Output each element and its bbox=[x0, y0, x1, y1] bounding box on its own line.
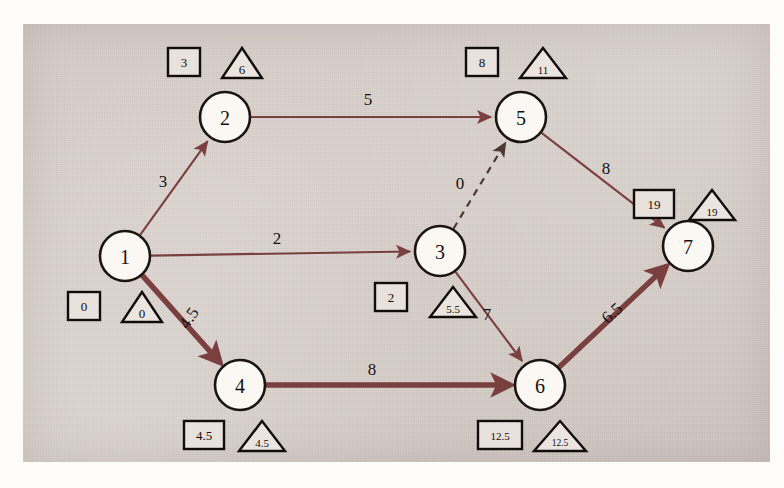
latest-time-value-node-5: 11 bbox=[538, 64, 549, 76]
node-5[interactable]: 5 bbox=[496, 92, 546, 142]
diagram-stage: 003625.54.54.581112.512.51919 1234567 35… bbox=[0, 0, 784, 488]
network-graph: 003625.54.54.581112.512.51919 1234567 35… bbox=[0, 0, 784, 488]
node-label-2: 2 bbox=[220, 107, 230, 129]
node-2[interactable]: 2 bbox=[200, 92, 250, 142]
node-4[interactable]: 4 bbox=[215, 360, 265, 410]
node-label-1: 1 bbox=[120, 246, 130, 268]
earliest-time-value-node-1: 0 bbox=[81, 299, 88, 314]
node-7[interactable]: 7 bbox=[663, 221, 713, 271]
node-6[interactable]: 6 bbox=[515, 360, 565, 410]
edge-weight-4-6: 8 bbox=[368, 360, 377, 379]
edge-weight-3-5: 0 bbox=[456, 174, 465, 193]
earliest-time-value-node-6: 12.5 bbox=[490, 430, 510, 442]
edge-weight-3-6: 7 bbox=[483, 305, 492, 324]
node-time-tags-layer: 003625.54.54.581112.512.51919 bbox=[68, 48, 735, 451]
node-1[interactable]: 1 bbox=[100, 231, 150, 281]
earliest-time-value-node-3: 2 bbox=[388, 290, 395, 305]
edges-layer bbox=[140, 117, 665, 385]
node-3[interactable]: 3 bbox=[415, 226, 465, 276]
node-label-3: 3 bbox=[435, 241, 445, 263]
edge-weight-5-7: 8 bbox=[602, 159, 611, 178]
node-label-4: 4 bbox=[235, 375, 245, 397]
edge-weight-2-5: 5 bbox=[364, 90, 373, 109]
earliest-time-value-node-7: 19 bbox=[648, 197, 661, 212]
earliest-time-value-node-4: 4.5 bbox=[196, 428, 212, 443]
latest-time-value-node-3: 5.5 bbox=[446, 303, 460, 315]
edge-weight-1-4: 4.5 bbox=[175, 304, 203, 332]
earliest-time-value-node-2: 3 bbox=[181, 55, 188, 70]
earliest-time-value-node-5: 8 bbox=[479, 55, 486, 70]
latest-time-value-node-4: 4.5 bbox=[255, 437, 269, 449]
node-label-6: 6 bbox=[535, 375, 545, 397]
latest-time-value-node-7: 19 bbox=[707, 206, 719, 218]
edge-weight-6-7: 6.5 bbox=[598, 299, 627, 327]
edge-1-to-3 bbox=[151, 251, 410, 255]
latest-time-value-node-1: 0 bbox=[139, 306, 146, 321]
latest-time-value-node-2: 6 bbox=[239, 62, 246, 77]
latest-time-value-node-6: 12.5 bbox=[552, 438, 569, 448]
edge-weight-1-2: 3 bbox=[159, 172, 168, 191]
edge-weight-1-3: 2 bbox=[273, 229, 282, 248]
node-label-7: 7 bbox=[683, 236, 693, 258]
edge-1-to-2 bbox=[140, 141, 207, 235]
node-label-5: 5 bbox=[516, 107, 526, 129]
